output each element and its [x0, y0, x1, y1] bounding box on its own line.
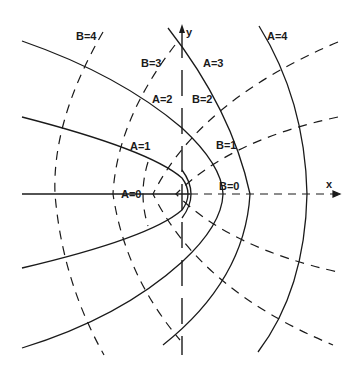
x-axis-arrow-icon — [330, 191, 340, 197]
b1-curve — [176, 117, 338, 272]
diagram-svg: y x A=0 A=1 A=2 A=3 A=4 B=0 B=1 B=2 B=3 … — [0, 0, 358, 374]
a4-curve — [258, 26, 307, 352]
label-b1: B=1 — [216, 139, 237, 151]
label-b3: B=3 — [141, 57, 162, 69]
label-b2: B=2 — [192, 93, 213, 105]
label-a2: A=2 — [152, 93, 173, 105]
parabolic-coordinate-diagram: y x A=0 A=1 A=2 A=3 A=4 B=0 B=1 B=2 B=3 … — [0, 0, 358, 374]
a1-curve — [22, 117, 188, 268]
label-b4: B=4 — [76, 30, 97, 42]
y-axis-arrow-icon — [179, 24, 185, 33]
label-a1: A=1 — [130, 140, 151, 152]
y-axis-label: y — [186, 26, 193, 38]
label-b0: B=0 — [219, 180, 240, 192]
label-a3: A=3 — [203, 57, 224, 69]
label-a0: A=0 — [121, 188, 142, 200]
label-a4: A=4 — [267, 30, 288, 42]
x-axis-label: x — [326, 178, 333, 190]
